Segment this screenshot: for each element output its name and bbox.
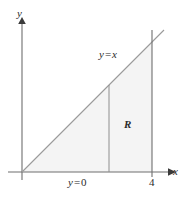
plot-canvas <box>0 0 185 201</box>
y-axis-label: y <box>17 8 22 19</box>
equation-rhs-x: x <box>112 48 117 60</box>
equation-operator: = <box>104 48 112 60</box>
equation-label-y-equals-0: y=0 <box>68 177 87 188</box>
equation-rhs-0: 0 <box>81 176 87 188</box>
region-label-r: R <box>124 119 131 130</box>
x-tick-label-4: 4 <box>149 177 155 188</box>
equation-operator: = <box>73 176 81 188</box>
x-axis-label: x <box>173 166 178 177</box>
equation-label-y-equals-x: y=x <box>99 49 117 60</box>
figure-region-r: y x y=x y=0 R 4 <box>0 0 185 201</box>
